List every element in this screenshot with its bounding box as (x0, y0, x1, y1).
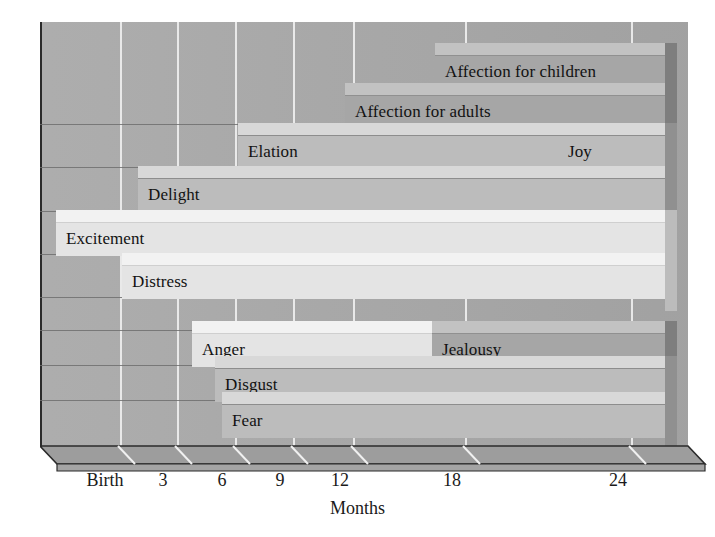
bar-fear[interactable]: Fear (222, 404, 665, 438)
bar-side-face (665, 392, 677, 450)
bar-excitement[interactable]: Excitement (56, 222, 665, 256)
bar-delight[interactable]: Delight (138, 178, 665, 212)
bar-front-face (122, 265, 665, 299)
bar-front-face (56, 222, 665, 256)
bar-top-face (122, 253, 677, 265)
x-axis-title: Months (0, 498, 715, 519)
bar-top-face (435, 43, 677, 55)
bar-label: Affection for adults (355, 102, 491, 122)
bar-label: Affection for children (445, 62, 596, 82)
bar-top-face (222, 392, 677, 404)
bar-label: Elation (248, 142, 298, 162)
bar-label: Delight (148, 185, 200, 205)
bar-top-face (432, 321, 677, 333)
bar-top-face (345, 83, 677, 95)
bar-top-face (215, 356, 677, 368)
bar-label: Distress (132, 272, 188, 292)
bar-top-face (56, 210, 677, 222)
bar-front-face (222, 404, 665, 438)
bar-label: Excitement (66, 229, 144, 249)
bar-label: Joy (568, 142, 592, 162)
bar-top-face (138, 166, 677, 178)
bar-front-face (138, 178, 665, 212)
bar-joy[interactable]: Joy (558, 135, 665, 169)
axis-floor (40, 444, 705, 474)
developmental-emotions-chart: Affection for children Affection for adu… (0, 0, 715, 537)
bar-side-face (665, 253, 677, 311)
bar-top-face (558, 123, 677, 135)
bar-distress[interactable]: Distress (122, 265, 665, 299)
bar-label: Fear (232, 411, 263, 431)
